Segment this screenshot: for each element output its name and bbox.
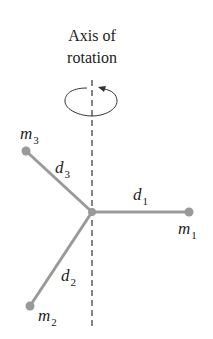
label-m2-sub: 2 xyxy=(51,316,57,328)
mass-m1 xyxy=(185,208,194,217)
mass-m2 xyxy=(26,302,35,311)
label-m3: m3 xyxy=(20,125,39,142)
label-m2: m2 xyxy=(38,307,57,324)
label-d2-name: d xyxy=(61,266,70,285)
mass-m3 xyxy=(22,147,31,156)
label-m1-name: m xyxy=(178,219,190,238)
label-d3: d3 xyxy=(55,159,70,176)
label-d1-sub: 1 xyxy=(143,195,149,207)
rod-d2 xyxy=(30,212,92,306)
label-d1: d1 xyxy=(133,186,148,203)
title-line-1: Axis of xyxy=(42,28,142,44)
label-d3-name: d xyxy=(55,158,64,177)
rotation-arrow-icon xyxy=(65,88,117,116)
title-line-2: rotation xyxy=(42,50,142,66)
label-m1-sub: 1 xyxy=(191,229,197,241)
label-d2: d2 xyxy=(61,267,76,284)
label-m1: m1 xyxy=(178,220,197,237)
label-m3-name: m xyxy=(20,124,32,143)
label-m3-sub: 3 xyxy=(33,134,39,146)
label-d1-name: d xyxy=(133,185,142,204)
label-d2-sub: 2 xyxy=(71,276,77,288)
rotation-diagram: Axis of rotation m3 d3 d1 m1 d2 m2 xyxy=(0,0,213,339)
label-m2-name: m xyxy=(38,306,50,325)
label-d3-sub: 3 xyxy=(65,168,71,180)
pivot xyxy=(88,208,96,216)
arrowhead-icon xyxy=(98,86,106,92)
